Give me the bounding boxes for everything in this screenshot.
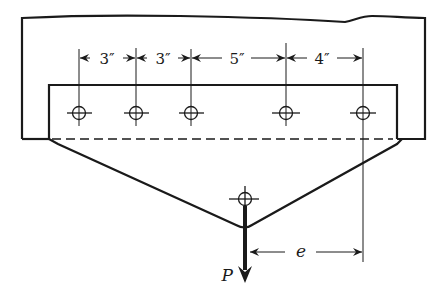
bolt-group (67, 107, 376, 207)
spacing-label: 3″ (99, 50, 115, 68)
dimension-lines (80, 58, 362, 252)
load-label: P (221, 265, 234, 285)
spacing-label: 3″ (155, 50, 171, 68)
extension-lines (79, 43, 363, 262)
bracket-plate (49, 85, 402, 228)
supporting-member (22, 16, 425, 139)
load-point-hole-icon (229, 186, 259, 206)
load-arrow (238, 206, 252, 283)
spacing-label: 5″ (229, 50, 245, 68)
spacing-label: 4″ (314, 50, 330, 68)
eccentricity-label: e (296, 241, 306, 261)
bracket-diagram: 3″ 3″ 5″ 4″ P e (0, 0, 438, 308)
